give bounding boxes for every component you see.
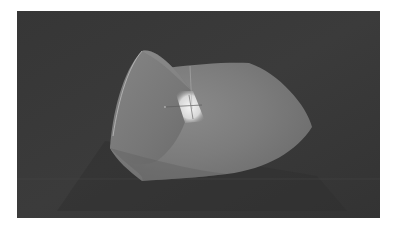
3d-viewport[interactable] <box>17 11 380 218</box>
scene-render <box>17 11 380 218</box>
image-frame <box>0 0 398 230</box>
